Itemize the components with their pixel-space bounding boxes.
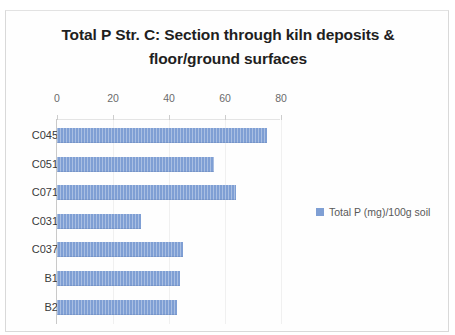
bar[interactable] — [57, 271, 180, 286]
x-axis-tick-label: 60 — [219, 92, 231, 104]
x-axis-tick-mark — [281, 115, 282, 120]
x-axis-tick-mark — [113, 115, 114, 120]
bar[interactable] — [57, 300, 177, 315]
bar-row: B1 — [6, 266, 450, 294]
category-label: B1 — [45, 272, 58, 284]
x-axis-tick-label: 80 — [275, 92, 287, 104]
category-label: C051 — [32, 158, 58, 170]
x-axis-tick-label: 20 — [107, 92, 119, 104]
category-label: C037 — [32, 243, 58, 255]
category-label: B2 — [45, 301, 58, 313]
bar-row: C037 — [6, 237, 450, 265]
legend: Total P (mg)/100g soil — [316, 206, 430, 218]
bar-row: C045 — [6, 123, 450, 151]
legend-color-swatch — [316, 208, 324, 216]
category-label: C031 — [32, 215, 58, 227]
x-axis-tick-mark — [169, 115, 170, 120]
bar[interactable] — [57, 214, 141, 229]
category-label: C071 — [32, 186, 58, 198]
x-axis-tick-mark — [57, 115, 58, 120]
bar[interactable] — [57, 185, 236, 200]
bar[interactable] — [57, 128, 267, 143]
chart-container: Total P Str. C: Section through kiln dep… — [5, 10, 449, 332]
x-axis-tick-mark — [225, 115, 226, 120]
x-axis-line — [56, 119, 280, 120]
x-axis-tick-label: 40 — [163, 92, 175, 104]
bar-row: C071 — [6, 180, 450, 208]
bar[interactable] — [57, 157, 214, 172]
category-label: C045 — [32, 129, 58, 141]
x-axis-tick-label: 0 — [54, 92, 60, 104]
bar-row: B2 — [6, 295, 450, 323]
bar-row: C051 — [6, 152, 450, 180]
legend-label: Total P (mg)/100g soil — [329, 206, 430, 218]
bar[interactable] — [57, 242, 183, 257]
plot-area: 020406080 C045C051C071C031C037B1B2 — [6, 11, 450, 333]
